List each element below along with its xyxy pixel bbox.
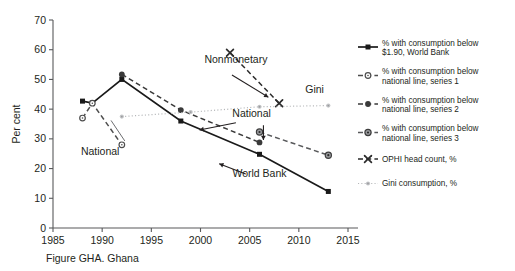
marker-square [257,152,262,157]
legend-item-1[interactable]: % with consumption below$1.90, World Ban… [358,39,479,58]
y-axis-tick-label: 10 [34,192,46,204]
legend-label: national line, series 1 [382,77,459,86]
marker-dot-small-center [190,111,192,113]
marker-circle-filled [365,101,371,107]
y-axis-tick-label: 30 [34,132,46,144]
marker-circle-dot-center [327,154,329,156]
y-axis-tick-label: 50 [34,73,46,85]
legend-item-3[interactable]: % with consumption belownational line, s… [358,96,479,115]
series-2 [80,100,125,147]
marker-circle-filled [178,107,184,113]
national-leader-down-head [261,136,266,140]
national-left-leader [111,120,125,141]
legend-label: % with consumption below [382,67,479,76]
ann-world-bank: World Bank [232,167,287,179]
caption-layer: Figure GHA. Ghana [46,252,139,264]
y-axis-tick-label: 0 [40,222,46,234]
legend-label: national line, series 3 [382,134,459,143]
series-1 [80,77,331,194]
legend-item-6[interactable]: Gini consumption, % [358,179,457,188]
marker-circle-dot-center [258,131,260,133]
ann-national-left: National [81,145,120,157]
x-axis-tick-label: 2000 [189,234,213,246]
series-line [122,106,328,117]
y-axis-tick-label: 70 [34,14,46,26]
legend-label: % with consumption below [382,39,479,48]
x-axis-tick-label: 1985 [41,234,65,246]
ann-gini: Gini [305,83,324,95]
marker-circle-filled [119,71,125,77]
series-4 [256,129,331,158]
annotation-layer: NationalNonmonetaryNationalGiniWorld Ban… [81,53,324,179]
y-axis-tick-label: 40 [34,103,46,115]
legend-item-5[interactable]: OPHI head count, % [358,155,457,164]
y-axis-tick-label: 60 [34,43,46,55]
legend-label: $1.90, World Bank [382,48,450,57]
series-line [83,79,329,191]
national-leader-left [200,123,236,130]
legend-item-2[interactable]: % with consumption belownational line, s… [358,67,479,86]
x-axis-tick-label: 2005 [238,234,262,246]
figure-caption: Figure GHA. Ghana [46,252,139,264]
legend-label: national line, series 2 [382,105,459,114]
marker-circle-open-center [121,144,123,146]
marker-circle-open-center [92,102,94,104]
x-axis-tick-label: 1995 [140,234,164,246]
figure-container: 0102030405060701985199019952000200520102… [0,0,515,271]
y-axis-tick-label: 20 [34,162,46,174]
marker-square [178,119,183,124]
marker-circle-open-center [367,75,369,77]
legend-layer: % with consumption below$1.90, World Ban… [358,39,479,189]
marker-dot-small-center [327,105,329,107]
marker-square [80,99,85,104]
marker-square [326,189,331,194]
legend-label: % with consumption below [382,124,479,133]
x-axis-tick-label: 2010 [287,234,311,246]
y-axis-title: Per cent [10,104,22,143]
x-axis-tick-label: 2015 [336,234,360,246]
series-6 [120,103,331,118]
legend-label: Gini consumption, % [382,179,457,188]
series-line [83,103,122,145]
legend-label: OPHI head count, % [382,155,457,164]
series-line [260,132,329,155]
legend-item-4[interactable]: % with consumption belownational line, s… [358,124,479,143]
nonmonetary-leader [232,75,268,97]
x-axis-tick-label: 1990 [90,234,114,246]
legend-label: % with consumption below [382,96,479,105]
chart-canvas: 0102030405060701985199019952000200520102… [0,0,515,271]
marker-circle-open-center [82,117,84,119]
marker-circle-dot-center [367,131,369,133]
marker-dot-small-center [367,183,369,185]
ann-national-right: National [232,107,271,119]
series-layer [80,49,332,194]
marker-dot-small-center [121,116,123,118]
marker-circle-filled [257,140,263,146]
marker-square [366,45,371,50]
marker-square [119,77,124,82]
axis-layer: 0102030405060701985199019952000200520102… [10,14,360,246]
ann-nonmonetary: Nonmonetary [204,53,268,65]
